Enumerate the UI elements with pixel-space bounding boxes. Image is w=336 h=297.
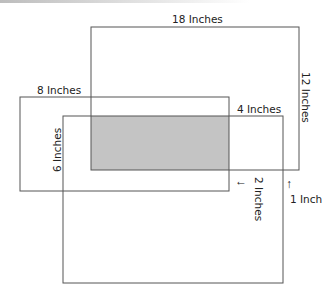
label-8-inches: 8 Inches [37, 84, 81, 96]
label-6-inches: 6 Inches [51, 128, 63, 172]
label-12-inches: 12 Inches [300, 72, 312, 123]
label-4-inches: 4 Inches [237, 103, 281, 115]
overlap-diagram: 18 Inches 8 Inches 4 Inches 12 Inches 6 … [0, 0, 336, 297]
label-18-inches: 18 Inches [172, 13, 223, 25]
label-1-inch: 1 Inch [290, 193, 322, 205]
arrow-left-icon: ← [235, 174, 247, 188]
shaded-overlap-region [91, 116, 229, 170]
arrow-up-icon: ↑ [286, 177, 292, 191]
label-2-inches: 2 Inches [253, 177, 265, 221]
